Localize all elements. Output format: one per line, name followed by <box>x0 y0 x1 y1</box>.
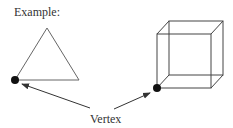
vertex-label: Vertex <box>90 112 121 126</box>
triangle-shape <box>15 28 79 80</box>
triangle-vertex-dot <box>11 76 19 84</box>
arrow-to-cube-vertex <box>114 93 150 109</box>
cube-edge <box>211 75 223 88</box>
cube-vertex-dot <box>153 84 161 92</box>
example-heading: Example: <box>14 5 60 19</box>
cube-shape <box>157 21 223 88</box>
cube-edge <box>211 21 223 34</box>
arrow-to-triangle-vertex <box>22 84 90 108</box>
vertex-diagram: Example: Vertex <box>0 0 233 128</box>
cube-edge <box>157 21 169 34</box>
